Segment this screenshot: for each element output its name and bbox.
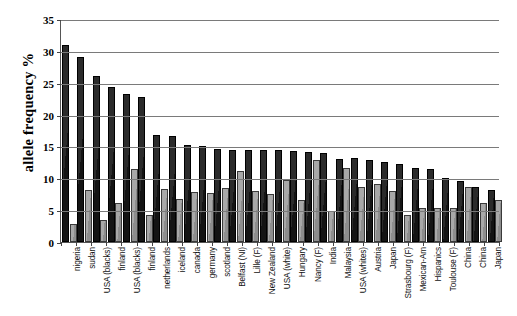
bar-group[interactable] <box>457 20 472 242</box>
bar-group[interactable] <box>214 20 229 242</box>
bar-series-2[interactable] <box>404 215 411 242</box>
bar-group[interactable] <box>138 20 153 242</box>
bar-group[interactable] <box>442 20 457 242</box>
bar-group[interactable] <box>366 20 381 242</box>
bar-group[interactable] <box>290 20 305 242</box>
bar-series-1[interactable] <box>62 45 69 243</box>
bar-series-1[interactable] <box>214 149 221 242</box>
x-label-slot: India <box>317 247 332 315</box>
bar-series-2[interactable] <box>191 192 198 242</box>
x-tickmark <box>61 242 62 246</box>
bar-series-1[interactable] <box>275 150 282 242</box>
bar-group[interactable] <box>259 20 274 242</box>
bar-group[interactable] <box>62 20 77 242</box>
bar-series-1[interactable] <box>472 187 479 242</box>
bar-series-2[interactable] <box>207 193 214 242</box>
bar-group[interactable] <box>351 20 366 242</box>
y-tick-label-15: 15 <box>24 141 54 153</box>
bar-series-2[interactable] <box>450 208 457 242</box>
bar-group[interactable] <box>487 20 502 242</box>
bar-series-2[interactable] <box>237 171 244 242</box>
y-tick-label-5: 5 <box>24 205 54 217</box>
y-tickmark-5 <box>57 211 61 212</box>
bar-series-1[interactable] <box>442 178 449 242</box>
bar-series-2[interactable] <box>480 203 487 243</box>
bar-series-1[interactable] <box>488 190 495 242</box>
bar-series-2[interactable] <box>115 203 122 243</box>
bar-group[interactable] <box>396 20 411 242</box>
allele-frequency-bar-chart: allele frequency % 05101520253035 nigeri… <box>0 0 517 316</box>
bar-series-1[interactable] <box>366 160 373 242</box>
bar-series-1[interactable] <box>245 150 252 242</box>
bar-series-2[interactable] <box>100 220 107 242</box>
bar-series-1[interactable] <box>260 150 267 242</box>
bar-series-2[interactable] <box>267 194 274 242</box>
bar-group[interactable] <box>123 20 138 242</box>
bar-series-2[interactable] <box>328 211 335 242</box>
x-tickmark <box>288 242 289 246</box>
y-axis-tick-labels: 05101520253035 <box>24 16 54 244</box>
bar-series-1[interactable] <box>351 158 358 242</box>
bar-group[interactable] <box>411 20 426 242</box>
bar-series-1[interactable] <box>305 152 312 242</box>
bar-series-2[interactable] <box>358 187 365 242</box>
bar-series-1[interactable] <box>336 159 343 242</box>
bar-series-2[interactable] <box>313 160 320 242</box>
bar-group[interactable] <box>153 20 168 242</box>
bar-group[interactable] <box>427 20 442 242</box>
bar-group[interactable] <box>320 20 335 242</box>
bar-series-2[interactable] <box>298 200 305 242</box>
x-label-slot: Strasbourg (F) <box>392 247 407 315</box>
bar-series-1[interactable] <box>229 150 236 242</box>
bar-group[interactable] <box>244 20 259 242</box>
x-tickmark <box>121 242 122 246</box>
bar-group[interactable] <box>275 20 290 242</box>
bar-series-1[interactable] <box>320 153 327 242</box>
bar-series-2[interactable] <box>70 224 77 242</box>
bar-group[interactable] <box>229 20 244 242</box>
bar-series-2[interactable] <box>434 208 441 242</box>
bar-series-2[interactable] <box>85 190 92 242</box>
bar-series-1[interactable] <box>138 97 145 242</box>
x-tickmark <box>152 242 153 246</box>
bar-series-2[interactable] <box>465 187 472 242</box>
x-tickmark <box>469 242 470 246</box>
bar-series-2[interactable] <box>495 200 502 242</box>
x-label-slot: finland <box>106 247 121 315</box>
bar-series-1[interactable] <box>153 135 160 242</box>
bar-group[interactable] <box>305 20 320 242</box>
bar-group[interactable] <box>335 20 350 242</box>
bar-series-1[interactable] <box>381 162 388 242</box>
bar-series-2[interactable] <box>419 208 426 242</box>
bar-series-1[interactable] <box>396 164 403 242</box>
bar-group[interactable] <box>199 20 214 242</box>
bar-series-1[interactable] <box>108 87 115 242</box>
x-label-slot: netherlands <box>151 247 166 315</box>
bar-series-1[interactable] <box>169 136 176 242</box>
bar-series-2[interactable] <box>252 191 259 242</box>
bar-series-2[interactable] <box>146 215 153 242</box>
bar-series-1[interactable] <box>184 145 191 242</box>
bar-group[interactable] <box>168 20 183 242</box>
bar-series-2[interactable] <box>161 189 168 242</box>
x-tickmark <box>393 242 394 246</box>
bar-group[interactable] <box>381 20 396 242</box>
bar-series-2[interactable] <box>374 184 381 242</box>
bar-series-2[interactable] <box>176 199 183 242</box>
x-tickmark <box>106 242 107 246</box>
x-label-slot: germany <box>197 247 212 315</box>
bar-series-2[interactable] <box>222 188 229 242</box>
bar-group[interactable] <box>108 20 123 242</box>
bar-group[interactable] <box>92 20 107 242</box>
bar-series-1[interactable] <box>199 146 206 242</box>
gridline-5 <box>61 211 499 212</box>
bar-group[interactable] <box>77 20 92 242</box>
bar-group[interactable] <box>472 20 487 242</box>
x-tickmark <box>272 242 273 246</box>
gridline-30 <box>61 52 499 53</box>
bar-group[interactable] <box>184 20 199 242</box>
bar-series-1[interactable] <box>93 76 100 242</box>
bar-series-2[interactable] <box>389 191 396 242</box>
y-tickmark-35 <box>57 20 61 21</box>
bar-series-1[interactable] <box>290 151 297 242</box>
